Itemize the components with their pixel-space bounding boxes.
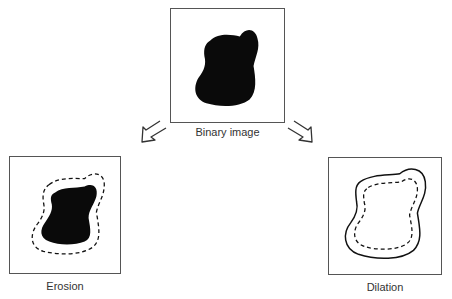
binary-image-label: Binary image: [170, 126, 285, 138]
dilation-shape-icon: [329, 158, 441, 274]
arrow-down-right-icon: [280, 118, 316, 148]
binary-shape-icon: [171, 9, 284, 122]
erosion-panel: [9, 156, 121, 274]
erosion-label: Erosion: [9, 280, 121, 292]
erosion-shape-icon: [10, 157, 120, 273]
arrow-down-left-icon: [138, 118, 174, 148]
dilation-panel: [328, 157, 442, 275]
dilation-label: Dilation: [328, 281, 442, 293]
binary-image-panel: [170, 8, 285, 123]
